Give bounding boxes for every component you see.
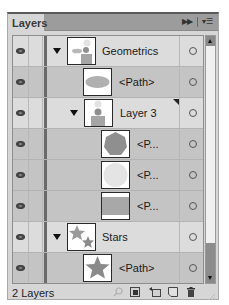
layer-color-bar	[44, 36, 47, 66]
panel-footer: 2 Layers	[8, 285, 218, 300]
disclosure-triangle-expanded-icon[interactable]	[53, 234, 61, 240]
layer-color-bar	[44, 129, 47, 159]
path-thumbnail	[83, 68, 112, 96]
lock-toggle[interactable]	[29, 67, 43, 97]
target-toggle[interactable]	[179, 98, 204, 128]
panel-tab-bar: Layers ▶▶ ▾☰	[8, 14, 218, 31]
visibility-toggle[interactable]	[13, 160, 29, 190]
target-circle-icon	[189, 202, 197, 210]
lock-toggle[interactable]	[29, 36, 43, 66]
path-name[interactable]: <P...	[137, 200, 159, 212]
path-row[interactable]: <Path>	[13, 67, 204, 98]
layer-name[interactable]: Stars	[102, 231, 128, 243]
layer-thumbnail	[84, 99, 113, 127]
lock-toggle[interactable]	[29, 129, 43, 159]
target-circle-icon	[189, 140, 197, 148]
layer-thumbnail	[67, 37, 96, 65]
lock-toggle[interactable]	[29, 191, 43, 221]
divider	[197, 17, 198, 27]
lock-toggle[interactable]	[29, 98, 43, 128]
eye-icon	[16, 48, 25, 54]
tab-layers[interactable]: Layers	[8, 14, 45, 31]
path-row[interactable]: <P...	[13, 129, 204, 160]
layer-row-stars[interactable]: Stars	[13, 222, 204, 253]
visibility-toggle[interactable]	[13, 36, 29, 66]
eye-icon	[16, 141, 25, 147]
target-toggle[interactable]	[179, 222, 204, 252]
layer-row-layer-3[interactable]: Layer 3	[13, 98, 204, 129]
create-sublayer-icon[interactable]	[148, 287, 161, 297]
path-name[interactable]: <Path>	[119, 262, 154, 274]
layer-thumbnail	[67, 223, 96, 251]
path-name[interactable]: <Path>	[119, 76, 154, 88]
scroll-down-arrow-icon[interactable]	[206, 273, 215, 283]
layer-count: 2 Layers	[12, 287, 54, 299]
path-row[interactable]: <P...	[13, 160, 204, 191]
trash-icon[interactable]	[186, 287, 196, 297]
layers-panel: Layers ▶▶ ▾☰ Geometrics	[7, 12, 219, 300]
eye-icon	[16, 79, 25, 85]
visibility-toggle[interactable]	[13, 222, 29, 252]
layer-color-bar	[44, 67, 47, 97]
panel-menu-icon[interactable]: ▾☰	[202, 17, 213, 26]
layer-name[interactable]: Geometrics	[102, 45, 158, 57]
target-circle-icon	[189, 233, 197, 241]
eye-icon	[16, 203, 25, 209]
target-circle-icon	[189, 47, 197, 55]
target-toggle[interactable]	[179, 67, 204, 97]
target-toggle[interactable]	[179, 160, 204, 190]
target-circle-icon	[189, 78, 197, 86]
path-row[interactable]: <Path>	[13, 253, 204, 284]
layer-color-bar	[44, 191, 47, 221]
path-thumbnail	[83, 254, 112, 282]
target-circle-icon	[189, 264, 197, 272]
eye-icon	[16, 265, 25, 271]
layer-row-geometrics[interactable]: Geometrics	[13, 36, 204, 67]
layer-name[interactable]: Layer 3	[120, 107, 157, 119]
target-circle-icon	[189, 171, 197, 179]
resize-grip-icon[interactable]	[208, 291, 216, 299]
visibility-toggle[interactable]	[13, 98, 29, 128]
create-layer-icon[interactable]	[168, 287, 178, 297]
visibility-toggle[interactable]	[13, 129, 29, 159]
double-chevron-right-icon[interactable]: ▶▶	[182, 17, 192, 26]
eye-icon	[16, 172, 25, 178]
target-circle-icon	[189, 109, 197, 117]
disclosure-triangle-expanded-icon[interactable]	[53, 48, 61, 54]
visibility-toggle[interactable]	[13, 191, 29, 221]
path-name[interactable]: <P...	[137, 169, 159, 181]
target-toggle[interactable]	[179, 36, 204, 66]
path-row[interactable]: <P...	[13, 191, 204, 222]
visibility-toggle[interactable]	[13, 253, 29, 283]
visibility-toggle[interactable]	[13, 67, 29, 97]
lock-toggle[interactable]	[29, 160, 43, 190]
scroll-up-arrow-icon[interactable]	[206, 36, 215, 46]
target-toggle[interactable]	[179, 253, 204, 283]
layer-color-bar	[44, 98, 47, 128]
vertical-scrollbar[interactable]	[205, 35, 216, 284]
disclosure-triangle-expanded-icon[interactable]	[70, 110, 78, 116]
selected-art-indicator-icon	[173, 99, 179, 105]
eye-icon	[16, 110, 25, 116]
eye-icon	[16, 234, 25, 240]
path-thumbnail	[101, 130, 130, 158]
locate-object-icon[interactable]	[113, 287, 123, 297]
layer-color-bar	[44, 160, 47, 190]
layers-list: Geometrics <Path>	[12, 35, 204, 284]
target-toggle[interactable]	[179, 191, 204, 221]
path-name[interactable]: <P...	[137, 138, 159, 150]
path-thumbnail	[101, 192, 130, 220]
path-thumbnail	[101, 161, 130, 189]
layer-color-bar	[44, 253, 47, 283]
scroll-thumb[interactable]	[206, 243, 215, 273]
lock-toggle[interactable]	[29, 253, 43, 283]
layer-color-bar	[44, 222, 47, 252]
target-toggle[interactable]	[179, 129, 204, 159]
make-clipping-mask-icon[interactable]	[130, 287, 140, 297]
lock-toggle[interactable]	[29, 222, 43, 252]
